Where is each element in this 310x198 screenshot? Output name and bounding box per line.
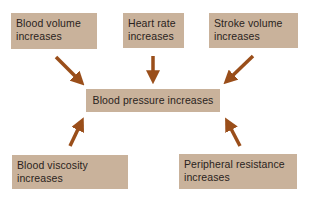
factor-box-blood-volume: Blood volume increases [11, 13, 97, 49]
factor-label: increases [17, 172, 123, 185]
factor-label: Blood volume [16, 17, 92, 30]
arrow-stroke-volume [228, 56, 253, 80]
factor-label: increases [128, 30, 179, 43]
factor-label: increases [214, 30, 293, 43]
factor-box-stroke-volume: Stroke volume increases [209, 13, 298, 48]
factor-box-heart-rate: Heart rate increases [123, 13, 184, 48]
arrow-blood-volume [56, 57, 80, 81]
arrow-peripheral-resistance [228, 123, 240, 146]
factor-label: Stroke volume [214, 17, 293, 30]
factor-label: increases [16, 30, 92, 43]
factor-label: increases [184, 171, 292, 184]
factor-label: Peripheral resistance [184, 158, 292, 171]
factor-box-blood-viscosity: Blood viscosity increases [12, 155, 128, 189]
factor-box-peripheral-resistance: Peripheral resistance increases [179, 154, 297, 189]
outcome-label: Blood pressure increases [93, 94, 214, 107]
factor-label: Blood viscosity [17, 159, 123, 172]
factor-label: Heart rate [128, 17, 179, 30]
outcome-box-blood-pressure: Blood pressure increases [86, 89, 220, 112]
arrow-blood-viscosity [70, 123, 81, 146]
